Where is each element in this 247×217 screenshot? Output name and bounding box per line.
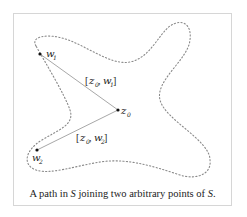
figure-caption: A path in S joining two arbitrary points… (13, 188, 232, 199)
svg-text:[: [ (85, 75, 88, 86)
svg-text:2: 2 (38, 158, 43, 165)
label-segment-z0-w1: [ z 0 , w 1 ] (85, 75, 116, 88)
svg-text:1: 1 (53, 54, 57, 61)
diagram-canvas: w 1 z 0 w 2 [ z 0 , w 1 ] [ z 0 , w 2 ] (0, 0, 247, 217)
caption-text-3: . (213, 188, 216, 199)
svg-text:z: z (120, 105, 127, 116)
label-segment-z0-w2: [ z 0 , w 2 ] (76, 132, 107, 145)
segment-z0-w2 (37, 110, 118, 150)
svg-text:[: [ (76, 132, 79, 143)
point-z0 (116, 108, 119, 111)
label-w2: w 2 (32, 152, 43, 165)
svg-text:,: , (98, 75, 101, 86)
svg-text:z: z (88, 75, 95, 86)
label-z0: z 0 (120, 105, 131, 118)
caption-text-1: A path in (29, 188, 70, 199)
svg-text:0: 0 (127, 111, 131, 118)
region-s-boundary (27, 22, 210, 176)
svg-text:z: z (79, 132, 86, 143)
svg-text:]: ] (104, 132, 107, 143)
svg-text:]: ] (113, 75, 116, 86)
caption-text-2: joining two arbitrary points of (76, 188, 208, 199)
svg-text:,: , (89, 132, 92, 143)
point-w1 (38, 52, 41, 55)
